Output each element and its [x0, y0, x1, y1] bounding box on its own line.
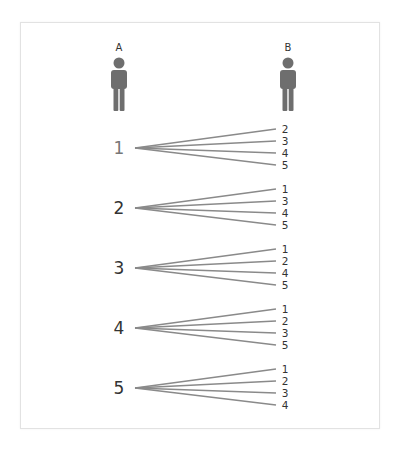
target-label: 3 [282, 195, 289, 207]
pairing-group: 31245 [114, 243, 289, 291]
target-label: 3 [282, 327, 289, 339]
target-label: 4 [282, 147, 289, 159]
target-label: 1 [282, 183, 289, 195]
target-label: 5 [282, 339, 289, 351]
pairing-diagram: A B 1234521345312454123551234 [0, 0, 401, 453]
target-label: 1 [282, 363, 289, 375]
source-label: 2 [114, 198, 125, 218]
target-label: 3 [282, 387, 289, 399]
person-b-label: B [285, 42, 292, 53]
pairing-group: 12345 [114, 123, 289, 171]
person-a-label: A [116, 42, 123, 53]
target-label: 4 [282, 267, 289, 279]
target-label: 1 [282, 303, 289, 315]
person-a-icon [111, 58, 127, 112]
person-a: A [111, 42, 127, 111]
target-label: 4 [282, 207, 289, 219]
target-label: 2 [282, 315, 289, 327]
target-label: 4 [282, 399, 289, 411]
target-label: 5 [282, 159, 289, 171]
target-label: 3 [282, 135, 289, 147]
target-label: 1 [282, 243, 289, 255]
source-label: 1 [114, 138, 125, 158]
person-b: B [280, 42, 296, 111]
pairing-group: 51234 [114, 363, 289, 411]
target-label: 2 [282, 123, 289, 135]
pairing-group: 41235 [114, 303, 289, 351]
target-label: 5 [282, 279, 289, 291]
target-label: 2 [282, 255, 289, 267]
target-label: 5 [282, 219, 289, 231]
person-b-icon [280, 58, 296, 112]
source-label: 3 [114, 258, 125, 278]
pairing-group: 21345 [114, 183, 289, 231]
source-label: 5 [114, 378, 125, 398]
source-label: 4 [114, 318, 125, 338]
target-label: 2 [282, 375, 289, 387]
